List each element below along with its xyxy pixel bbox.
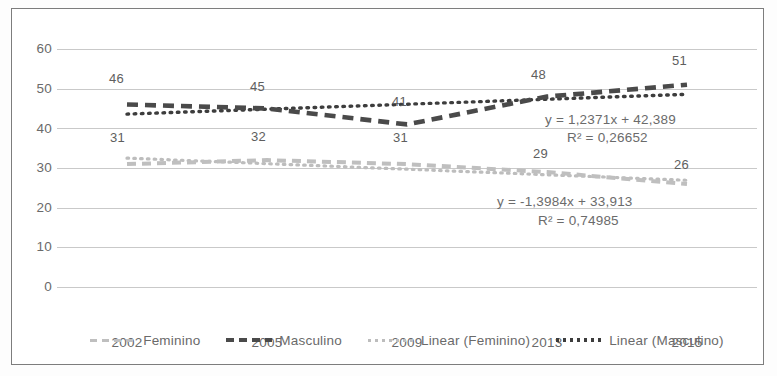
legend-item-feminino[interactable]: Feminino: [90, 333, 200, 348]
gridline-0: [57, 287, 757, 288]
equation-feminino: y = -1,3984x + 33,913: [497, 194, 633, 209]
chart-legend: Feminino Masculino Linear (Feminino) Lin…: [57, 327, 757, 353]
data-label-feminino-2009: 31: [393, 130, 408, 145]
chart-frame: 60 50 40 30 20 10 0: [11, 8, 764, 365]
r-squared-masculino: R² = 0,26652: [567, 130, 648, 145]
r-squared-feminino: R² = 0,74985: [538, 213, 619, 228]
legend-item-linear-masculino[interactable]: Linear (Masculino): [556, 333, 724, 348]
data-label-feminino-2002: 31: [110, 130, 125, 145]
y-axis-tick-10: 10: [24, 239, 52, 254]
data-label-feminino-2005: 32: [251, 129, 266, 144]
data-label-masculino-2015: 51: [672, 53, 687, 68]
legend-label-feminino: Feminino: [143, 333, 200, 348]
trendline-feminino-line: [127, 158, 687, 180]
legend-label-linear-feminino: Linear (Feminino): [421, 333, 530, 348]
series-feminino-line: [127, 160, 687, 184]
legend-swatch-masculino-icon: [226, 338, 272, 342]
y-axis-tick-30: 30: [24, 160, 52, 175]
y-axis-tick-40: 40: [24, 121, 52, 136]
y-axis-tick-50: 50: [24, 81, 52, 96]
y-axis-tick-60: 60: [24, 41, 52, 56]
legend-swatch-linear-feminino-icon: [368, 339, 414, 342]
data-label-masculino-2002: 46: [109, 71, 124, 86]
y-axis-tick-20: 20: [24, 200, 52, 215]
series-svg: [57, 49, 757, 287]
plot-area: 46 45 41 48 51 31 32 31 29 26 y = 1,2371…: [57, 49, 757, 287]
legend-swatch-feminino-icon: [90, 339, 136, 342]
equation-masculino: y = 1,2371x + 42,389: [545, 112, 676, 127]
data-label-masculino-2013: 48: [531, 67, 546, 82]
chart-screenshot: 60 50 40 30 20 10 0: [0, 0, 777, 376]
legend-item-masculino[interactable]: Masculino: [226, 333, 342, 348]
data-label-feminino-2013: 29: [533, 146, 548, 161]
legend-swatch-linear-masculino-icon: [556, 338, 602, 342]
y-axis-tick-0: 0: [24, 279, 52, 294]
data-label-masculino-2009: 41: [392, 94, 407, 109]
legend-item-linear-feminino[interactable]: Linear (Feminino): [368, 333, 530, 348]
legend-label-linear-masculino: Linear (Masculino): [609, 333, 724, 348]
data-label-feminino-2015: 26: [674, 157, 689, 172]
legend-label-masculino: Masculino: [279, 333, 342, 348]
data-label-masculino-2005: 45: [250, 79, 265, 94]
